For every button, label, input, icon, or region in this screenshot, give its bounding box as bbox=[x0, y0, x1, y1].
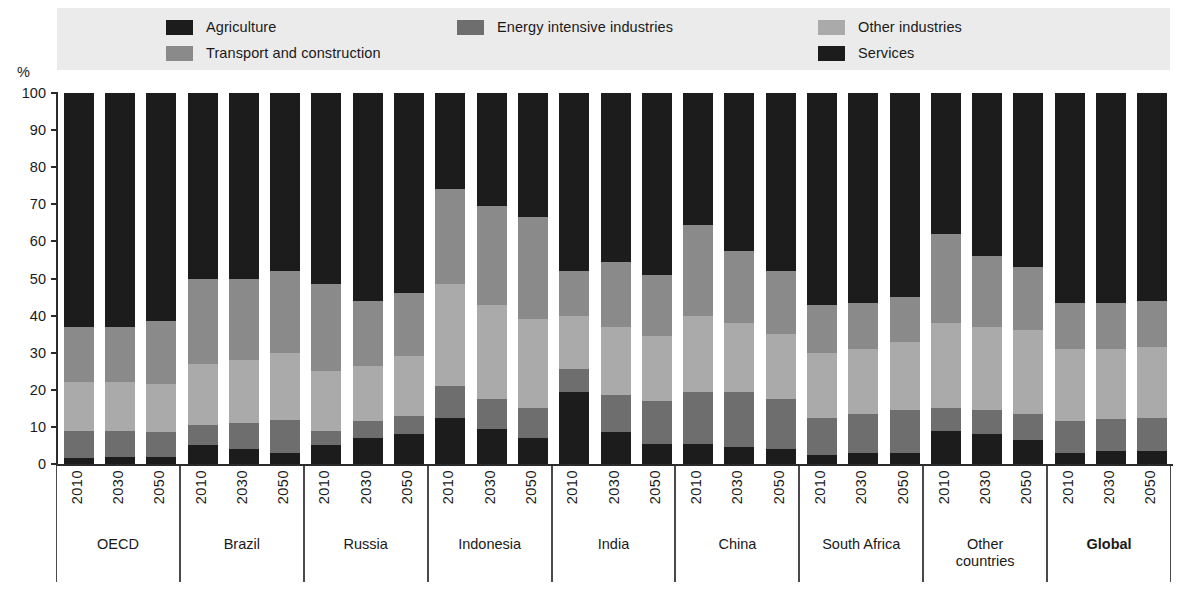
bar-segment-other bbox=[642, 336, 672, 401]
stacked-bar[interactable] bbox=[477, 93, 507, 464]
stacked-bar[interactable] bbox=[931, 93, 961, 464]
x-group-label: Global bbox=[1047, 536, 1171, 553]
legend-item-other-industries: Other industries bbox=[818, 19, 1158, 35]
stacked-bar[interactable] bbox=[642, 93, 672, 464]
bar-segment-services bbox=[1013, 93, 1043, 267]
y-axis: 1009080706050403020100 bbox=[0, 86, 52, 471]
bar-segment-energy bbox=[105, 431, 135, 457]
stacked-bar[interactable] bbox=[1013, 93, 1043, 464]
bar-segment-services bbox=[766, 93, 796, 271]
x-year-labels: 201020302050 bbox=[1047, 470, 1171, 532]
x-tick-label-2030: 2030 bbox=[103, 470, 133, 504]
bar-segment-agriculture bbox=[807, 455, 837, 464]
bar-segment-transport bbox=[1137, 301, 1167, 347]
stacked-bar[interactable] bbox=[311, 93, 341, 464]
bar-segment-services bbox=[270, 93, 300, 271]
bar-segment-other bbox=[188, 364, 218, 425]
bar-segment-transport bbox=[931, 234, 961, 323]
legend-item-agriculture: Agriculture bbox=[57, 19, 457, 35]
bar-segment-energy bbox=[1096, 419, 1126, 451]
x-tick-label-2010: 2010 bbox=[62, 470, 92, 504]
bar-segment-services bbox=[188, 93, 218, 279]
stacked-bar[interactable] bbox=[972, 93, 1002, 464]
bar-segment-services bbox=[64, 93, 94, 327]
bar-segment-energy bbox=[724, 392, 754, 448]
stacked-bar[interactable] bbox=[188, 93, 218, 464]
stacked-bar[interactable] bbox=[105, 93, 135, 464]
bar-segment-transport bbox=[435, 189, 465, 284]
stacked-bar[interactable] bbox=[1137, 93, 1167, 464]
stacked-bar[interactable] bbox=[1096, 93, 1126, 464]
legend-swatch-energy-intensive-industries bbox=[457, 20, 484, 35]
bar-segment-energy bbox=[477, 399, 507, 429]
stacked-bar[interactable] bbox=[229, 93, 259, 464]
bar-segment-services bbox=[435, 93, 465, 189]
bar-segment-agriculture bbox=[64, 458, 94, 464]
bar-group-russia bbox=[306, 93, 430, 464]
stacked-bar[interactable] bbox=[766, 93, 796, 464]
bar-segment-energy bbox=[146, 432, 176, 456]
y-tick-label-60: 60 bbox=[30, 234, 46, 248]
legend-label-agriculture: Agriculture bbox=[206, 19, 276, 35]
bar-segment-transport bbox=[64, 327, 94, 383]
bar-segment-services bbox=[311, 93, 341, 284]
bar-segment-services bbox=[848, 93, 878, 303]
stacked-bar[interactable] bbox=[64, 93, 94, 464]
bar-segment-other bbox=[518, 319, 548, 408]
bar-segment-agriculture bbox=[766, 449, 796, 464]
x-tick-label-2030: 2030 bbox=[846, 470, 876, 504]
bar-segment-other bbox=[394, 356, 424, 415]
y-tick-label-70: 70 bbox=[30, 197, 46, 211]
x-group-russia: 201020302050Russia bbox=[304, 466, 428, 598]
stacked-bar[interactable] bbox=[270, 93, 300, 464]
x-tick-label-2030: 2030 bbox=[722, 470, 752, 504]
x-tick-label-2010: 2010 bbox=[805, 470, 835, 504]
y-tick-label-40: 40 bbox=[30, 309, 46, 323]
x-group-china: 201020302050China bbox=[675, 466, 799, 598]
stacked-bar[interactable] bbox=[1055, 93, 1085, 464]
bar-segment-services bbox=[931, 93, 961, 234]
bar-segment-energy bbox=[559, 369, 589, 391]
stacked-bar[interactable] bbox=[353, 93, 383, 464]
x-group-india: 201020302050India bbox=[552, 466, 676, 598]
stacked-bar[interactable] bbox=[848, 93, 878, 464]
stacked-bar[interactable] bbox=[394, 93, 424, 464]
stacked-bar[interactable] bbox=[146, 93, 176, 464]
stacked-bar[interactable] bbox=[601, 93, 631, 464]
stacked-bar[interactable] bbox=[890, 93, 920, 464]
x-tick-label-2050: 2050 bbox=[1011, 470, 1041, 504]
bar-segment-energy bbox=[972, 410, 1002, 434]
bar-segment-services bbox=[601, 93, 631, 262]
bar-segment-services bbox=[394, 93, 424, 293]
bar-segment-agriculture bbox=[1055, 453, 1085, 464]
bar-segment-services bbox=[724, 93, 754, 251]
stacked-bar[interactable] bbox=[435, 93, 465, 464]
bar-segment-agriculture bbox=[435, 418, 465, 464]
bar-segment-transport bbox=[229, 279, 259, 361]
bar-segment-services bbox=[477, 93, 507, 206]
x-group-label: Brazil bbox=[180, 536, 304, 553]
bar-segment-other bbox=[1137, 347, 1167, 417]
x-tick-label-2050: 2050 bbox=[888, 470, 918, 504]
bar-segment-agriculture bbox=[972, 434, 1002, 464]
bar-segment-agriculture bbox=[1137, 451, 1167, 464]
bar-segment-transport bbox=[1055, 303, 1085, 349]
x-tick-label-2050: 2050 bbox=[144, 470, 174, 504]
stacked-bar[interactable] bbox=[518, 93, 548, 464]
legend-spacer bbox=[457, 46, 818, 61]
bar-segment-transport bbox=[311, 284, 341, 371]
bar-segment-transport bbox=[559, 271, 589, 316]
stacked-bar[interactable] bbox=[807, 93, 837, 464]
bar-segment-agriculture bbox=[229, 449, 259, 464]
bar-segment-agriculture bbox=[683, 444, 713, 464]
stacked-bar[interactable] bbox=[683, 93, 713, 464]
bar-segment-agriculture bbox=[724, 447, 754, 464]
stacked-bar[interactable] bbox=[724, 93, 754, 464]
bar-segment-energy bbox=[270, 420, 300, 453]
bar-segment-other bbox=[724, 323, 754, 392]
bar-segment-services bbox=[518, 93, 548, 217]
stacked-bar[interactable] bbox=[559, 93, 589, 464]
bar-group-other-countries bbox=[925, 93, 1049, 464]
bars-container bbox=[58, 93, 1173, 464]
bar-segment-agriculture bbox=[188, 445, 218, 464]
